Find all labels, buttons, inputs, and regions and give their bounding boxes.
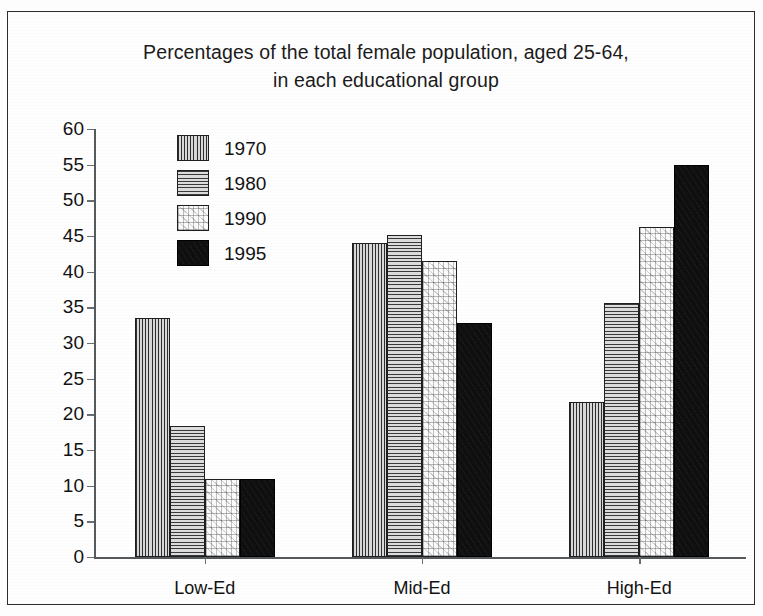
y-tick-label: 55 [63, 154, 84, 176]
bar-low-ed-1995 [240, 479, 275, 557]
y-tick-mark [87, 450, 94, 451]
chart-title-line-2: in each educational group [28, 66, 744, 94]
legend-label-1980: 1980 [224, 171, 266, 196]
y-tick-label: 45 [63, 225, 84, 247]
legend-swatch-1995 [177, 240, 209, 266]
x-category-label-high-ed: High-Ed [607, 578, 672, 599]
bar-mid-ed-1980 [387, 235, 422, 557]
y-tick-mark [87, 129, 94, 130]
y-tick-label: 30 [63, 332, 84, 354]
bar-low-ed-1980 [170, 426, 205, 557]
y-tick-mark [87, 165, 94, 166]
y-tick-label: 35 [63, 296, 84, 318]
legend-item-1990[interactable]: 1990 [177, 204, 307, 235]
x-category-label-mid-ed: Mid-Ed [393, 578, 450, 599]
x-axis-line [94, 557, 746, 559]
y-tick-mark [87, 307, 94, 308]
legend-item-1980[interactable]: 1980 [177, 169, 307, 200]
x-tick-mark [205, 557, 206, 564]
chart-title: Percentages of the total female populati… [28, 38, 744, 94]
y-axis-line [94, 129, 96, 557]
y-tick-mark [87, 236, 94, 237]
legend-item-1995[interactable]: 1995 [177, 239, 307, 270]
bar-mid-ed-1990 [422, 261, 457, 557]
legend-label-1995: 1995 [224, 241, 266, 266]
y-tick-mark [87, 379, 94, 380]
y-tick-label: 20 [63, 403, 84, 425]
y-tick-mark [87, 486, 94, 487]
y-tick-label: 10 [63, 475, 84, 497]
figure-border: Percentages of the total female populati… [7, 11, 755, 605]
y-tick-label: 50 [63, 189, 84, 211]
legend-swatch-1980 [177, 170, 209, 196]
legend-swatch-1990 [177, 205, 209, 231]
chart-title-line-1: Percentages of the total female populati… [143, 41, 629, 63]
bar-high-ed-1970 [569, 402, 604, 557]
y-tick-mark [87, 521, 94, 522]
y-tick-mark [87, 557, 94, 558]
bar-low-ed-1970 [135, 318, 170, 557]
bar-mid-ed-1995 [457, 323, 492, 557]
y-tick-label: 25 [63, 368, 84, 390]
x-category-label-low-ed: Low-Ed [174, 578, 235, 599]
bar-group [569, 129, 709, 557]
y-tick-mark [87, 200, 94, 201]
bar-low-ed-1990 [205, 479, 240, 557]
bar-high-ed-1990 [639, 227, 674, 557]
legend-label-1990: 1990 [224, 206, 266, 231]
y-tick-label: 40 [63, 261, 84, 283]
x-tick-mark [422, 557, 423, 564]
y-tick-label: 60 [63, 118, 84, 140]
legend-label-1970: 1970 [224, 136, 266, 161]
x-tick-mark [639, 557, 640, 564]
y-tick-label: 5 [73, 510, 84, 532]
bar-high-ed-1995 [674, 165, 709, 557]
y-tick-mark [87, 272, 94, 273]
bar-high-ed-1980 [604, 303, 639, 557]
bar-mid-ed-1970 [352, 243, 387, 557]
legend-item-1970[interactable]: 1970 [177, 134, 307, 165]
y-tick-mark [87, 343, 94, 344]
y-tick-label: 0 [73, 546, 84, 568]
legend-swatch-1970 [177, 135, 209, 161]
bar-group [352, 129, 492, 557]
y-tick-mark [87, 414, 94, 415]
chart-legend: 1970198019901995 [177, 134, 307, 274]
chart-figure: Percentages of the total female populati… [0, 0, 763, 616]
y-tick-label: 15 [63, 439, 84, 461]
